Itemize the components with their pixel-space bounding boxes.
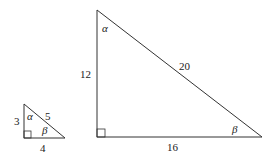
small-side-vertical: 3 (14, 115, 20, 127)
large-side-horizontal: 16 (167, 141, 179, 153)
small-angle-alpha: α (27, 110, 33, 122)
small-side-horizontal: 4 (40, 142, 46, 154)
small-right-angle-marker (24, 131, 31, 138)
large-angle-alpha: α (102, 22, 108, 34)
similar-triangles-diagram: 3 4 5 α β 12 16 20 α β (0, 0, 275, 158)
small-hypotenuse: 5 (45, 110, 51, 122)
large-side-vertical: 12 (80, 68, 91, 80)
small-triangle: 3 4 5 α β (14, 104, 65, 154)
small-angle-beta: β (41, 124, 48, 136)
large-right-angle-marker (97, 129, 105, 137)
large-hypotenuse: 20 (179, 60, 191, 72)
large-triangle-shape (97, 10, 262, 137)
large-angle-beta: β (231, 123, 238, 135)
large-triangle: 12 16 20 α β (80, 10, 262, 153)
